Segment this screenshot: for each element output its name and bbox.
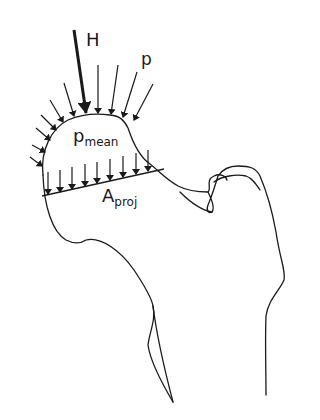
projected-area-subscript: proj bbox=[114, 195, 137, 209]
pressure-distribution-arrows bbox=[30, 65, 153, 166]
femoral-head-contour bbox=[43, 114, 227, 192]
trochanter-inner bbox=[214, 175, 260, 190]
hip-force-label: H bbox=[86, 31, 100, 49]
mean-pressure-symbol: p bbox=[73, 125, 84, 146]
medial-contour bbox=[43, 175, 173, 402]
greater-trochanter bbox=[207, 166, 284, 395]
hip-force-arrow bbox=[74, 30, 86, 113]
mean-pressure-label: pmean bbox=[73, 127, 118, 145]
projected-area-label: Aproj bbox=[102, 187, 137, 205]
mean-pressure-subscript: mean bbox=[84, 135, 118, 149]
femur-outline bbox=[43, 114, 285, 402]
pressure-label: p bbox=[141, 51, 152, 68]
projected-area-symbol: A bbox=[102, 185, 114, 206]
